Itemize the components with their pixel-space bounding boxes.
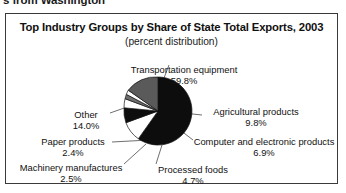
pie-label-machinery-manufactures-value: 2.5% — [16, 173, 126, 184]
pie-label-paper-products-value: 2.4% — [30, 147, 116, 158]
pie-slice-machinery-manufactures — [125, 94, 158, 111]
pie-label-machinery-manufactures-name: Machinery manufactures — [20, 162, 123, 173]
leader-line-paper — [112, 140, 149, 142]
figure-container: Top Industry Groups by Share of State To… — [5, 13, 338, 184]
pie-label-machinery-manufactures: Machinery manufactures 2.5% — [16, 162, 126, 184]
screenshot-root: s from Washington Top Industry Groups by… — [0, 0, 346, 193]
pie-label-agricultural-products: Agricultural products 9.8% — [206, 106, 306, 128]
pie-slice-agricultural-products — [126, 111, 158, 139]
pie-slice-paper-products — [126, 90, 158, 111]
pie-label-other-value: 14.0% — [58, 120, 114, 131]
pie-label-paper-products-name: Paper products — [41, 136, 105, 147]
pie-label-paper-products: Paper products 2.4% — [30, 136, 116, 158]
pie-slice-transportation-equipment — [138, 77, 192, 145]
chart-title: Top Industry Groups by Share of State To… — [6, 21, 337, 33]
leader-line-machinery — [124, 144, 146, 164]
pie-label-transportation-equipment: Transportation equipment 59.8% — [124, 64, 244, 86]
leader-line-agricultural — [183, 113, 202, 115]
chart-subtitle: (percent distribution) — [6, 36, 337, 47]
pie-label-computer-electronic-products-name: Computer and electronic products — [194, 136, 335, 147]
pie-label-agricultural-products-value: 9.8% — [206, 117, 306, 128]
pie-label-transportation-equipment-name: Transportation equipment — [131, 64, 238, 75]
pie-label-computer-electronic-products-value: 6.9% — [189, 147, 339, 158]
pie-slice-processed-foods — [124, 99, 158, 111]
pie-label-agricultural-products-name: Agricultural products — [213, 106, 298, 117]
leader-line-processed — [156, 145, 162, 164]
pie-slices — [124, 77, 192, 145]
page-heading: s from Washington — [3, 0, 105, 6]
pie-label-transportation-equipment-value: 59.8% — [124, 75, 244, 86]
pie-slice-computer-electronic-products — [124, 108, 158, 123]
pie-label-processed-foods-name: Processed foods — [158, 164, 228, 175]
pie-label-computer-electronic-products: Computer and electronic products 6.9% — [189, 136, 339, 158]
pie-label-other: Other 14.0% — [58, 109, 114, 131]
pie-label-processed-foods: Processed foods 4.7% — [146, 164, 240, 186]
pie-label-processed-foods-value: 4.7% — [146, 175, 240, 186]
pie-label-other-name: Other — [74, 109, 97, 120]
